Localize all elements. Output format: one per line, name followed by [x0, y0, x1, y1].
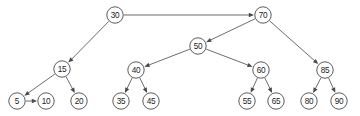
- node-label: 45: [147, 97, 156, 106]
- tree-node-60[interactable]: 60: [253, 62, 269, 78]
- tree-node-80[interactable]: 80: [301, 93, 317, 109]
- tree-node-90[interactable]: 90: [331, 93, 347, 109]
- tree-edge-30-15: [71, 21, 109, 60]
- tree-edge-15-20: [66, 77, 73, 90]
- tree-edge-60-65: [265, 78, 271, 90]
- tree-node-55[interactable]: 55: [239, 93, 255, 109]
- tree-node-20[interactable]: 20: [71, 93, 87, 109]
- tree-edge-40-45: [140, 78, 146, 90]
- node-label: 60: [257, 66, 266, 75]
- tree-node-40[interactable]: 40: [128, 62, 144, 78]
- tree-node-15[interactable]: 15: [54, 61, 70, 77]
- node-label: 50: [194, 42, 203, 51]
- node-label: 65: [272, 97, 281, 106]
- tree-node-70[interactable]: 70: [255, 7, 271, 23]
- tree-node-50[interactable]: 50: [190, 38, 206, 54]
- tree-node-65[interactable]: 65: [268, 93, 284, 109]
- tree-edge-50-40: [148, 49, 190, 65]
- node-label: 30: [111, 11, 120, 20]
- node-label: 35: [117, 97, 126, 106]
- tree-diagram: 3070501540608551020354555658090: [0, 0, 360, 116]
- node-label: 15: [58, 65, 67, 74]
- nodes-layer: 3070501540608551020354555658090: [9, 7, 347, 109]
- tree-edge-15-5: [27, 74, 54, 94]
- arrowhead-icon: [144, 63, 150, 67]
- edges-layer: [24, 13, 335, 103]
- tree-edge-70-50: [210, 19, 256, 41]
- arrowhead-icon: [24, 91, 30, 96]
- node-label: 5: [15, 97, 20, 106]
- tree-edge-60-55: [252, 78, 257, 89]
- tree-node-10[interactable]: 10: [38, 93, 54, 109]
- node-label: 90: [335, 97, 344, 106]
- node-label: 55: [243, 97, 252, 106]
- tree-node-45[interactable]: 45: [143, 93, 159, 109]
- node-label: 10: [42, 97, 51, 106]
- node-label: 70: [259, 11, 268, 20]
- tree-edge-40-35: [127, 78, 133, 90]
- node-label: 80: [305, 97, 314, 106]
- tree-edge-50-60: [206, 49, 249, 65]
- tree-canvas: 3070501540608551020354555658090: [0, 0, 360, 116]
- tree-node-5[interactable]: 5: [9, 93, 25, 109]
- arrowhead-icon: [32, 99, 37, 103]
- tree-edge-85-80: [315, 78, 321, 90]
- arrowhead-icon: [247, 63, 253, 67]
- tree-node-30[interactable]: 30: [107, 7, 123, 23]
- tree-node-85[interactable]: 85: [317, 62, 333, 78]
- tree-node-35[interactable]: 35: [113, 93, 129, 109]
- node-label: 40: [132, 66, 141, 75]
- node-label: 20: [75, 97, 84, 106]
- node-label: 85: [321, 66, 330, 75]
- tree-edge-85-90: [329, 78, 334, 89]
- arrowhead-icon: [249, 13, 254, 17]
- tree-edge-70-85: [270, 21, 316, 62]
